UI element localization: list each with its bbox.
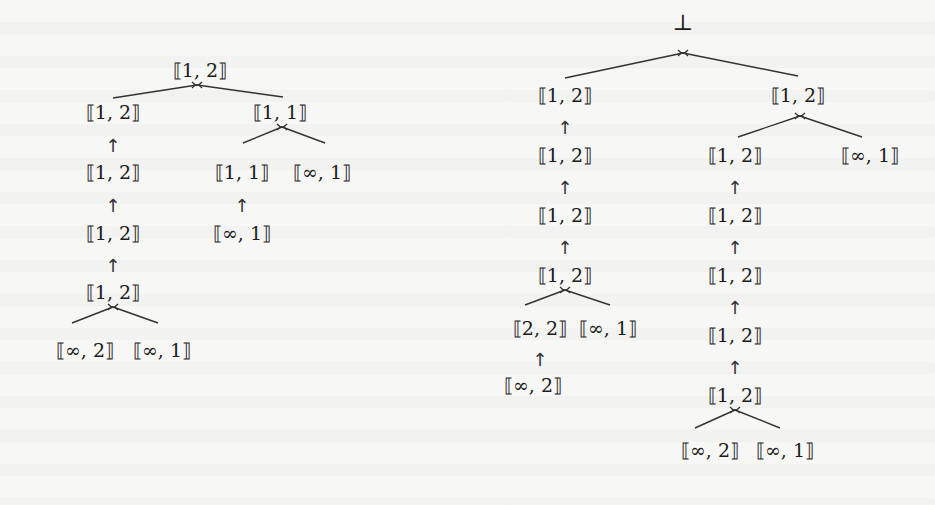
tree-edge: [197, 85, 283, 97]
join-branch: [72, 304, 158, 323]
tree-edge: [800, 116, 862, 137]
tree-node: ⟦1, 1⟧: [253, 101, 307, 123]
up-arrow-icon: ↑: [105, 255, 120, 276]
up-arrow-icon: ↑: [105, 195, 120, 216]
tree-edge: [565, 53, 683, 78]
up-arrow-icon: ↑: [557, 177, 572, 198]
tree-node: ⟦∞, 2⟧: [504, 374, 562, 396]
up-arrow-icon: ↑: [105, 135, 120, 156]
tree-node: ⟦1, 2⟧: [708, 144, 762, 166]
tree-node: ⟦∞, 1⟧: [579, 317, 637, 339]
up-arrow-icon: ↑: [557, 237, 572, 258]
join-branch: [525, 287, 610, 305]
up-arrow-icon: ↑: [727, 177, 742, 198]
up-arrow-icon: ↑: [532, 349, 547, 370]
tree-node: ⟦2, 2⟧: [513, 317, 567, 339]
join-branch: [565, 50, 798, 78]
join-branch: [113, 82, 283, 98]
tree-node: ⟦∞, 2⟧: [56, 339, 114, 361]
tree-edge: [72, 307, 113, 323]
join-icon: [795, 113, 805, 119]
tree-node: ⟦1, 2⟧: [538, 84, 592, 106]
up-arrow-icon: ↑: [727, 237, 742, 258]
tree-edge: [113, 85, 197, 98]
join-icon: [277, 124, 287, 130]
tree-node: ⟦1, 2⟧: [538, 144, 592, 166]
tree-node: ⟦1, 2⟧: [771, 84, 825, 106]
tree-edge: [683, 53, 798, 76]
tree-node: ⟦1, 2⟧: [708, 204, 762, 226]
tree-node: ⟦∞, 2⟧: [681, 439, 739, 461]
tree-node: ⟦1, 2⟧: [86, 281, 140, 303]
tree-node: ⟦1, 2⟧: [538, 264, 592, 286]
tree-edge: [243, 127, 282, 143]
tree-edge: [735, 410, 780, 428]
tree-node: ⟦∞, 1⟧: [213, 222, 271, 244]
tree-node: ⟦1, 2⟧: [86, 161, 140, 183]
tree-node: ⟦1, 2⟧: [538, 204, 592, 226]
lattice-diagram: ↑↑↑↑⟦1, 2⟧⟦1, 2⟧⟦1, 2⟧⟦1, 2⟧⟦1, 2⟧⟦∞, 2⟧…: [0, 0, 935, 505]
up-arrow-icon: ↑: [234, 195, 249, 216]
tree-node: ⟦1, 2⟧: [86, 101, 140, 123]
tree-edge: [525, 290, 565, 305]
tree-node: ⟦∞, 1⟧: [841, 144, 899, 166]
tree-node: ⟦∞, 1⟧: [133, 339, 191, 361]
join-icon: [730, 407, 740, 413]
tree-node: ⟦∞, 1⟧: [293, 161, 351, 183]
tree-edge: [282, 127, 325, 143]
tree-edge: [695, 410, 735, 428]
tree-node: ⟦1, 2⟧: [708, 324, 762, 346]
tree-node: ⟦1, 2⟧: [708, 384, 762, 406]
tree-edge: [565, 290, 610, 305]
tree-node: ⟦∞, 1⟧: [756, 439, 814, 461]
tree-node: ⟦1, 2⟧: [173, 59, 227, 81]
tree-edge: [738, 116, 800, 137]
join-icon: [560, 287, 570, 293]
tree-node: ⟦1, 2⟧: [86, 222, 140, 244]
right-tree: ↑↑↑↑↑↑↑↑⊥⟦1, 2⟧⟦1, 2⟧⟦1, 2⟧⟦1, 2⟧⟦2, 2⟧⟦…: [504, 10, 899, 461]
left-tree: ↑↑↑↑⟦1, 2⟧⟦1, 2⟧⟦1, 2⟧⟦1, 2⟧⟦1, 2⟧⟦∞, 2⟧…: [56, 59, 351, 361]
up-arrow-icon: ↑: [727, 297, 742, 318]
join-branch: [243, 124, 325, 143]
tree-node: ⟦1, 1⟧: [215, 161, 269, 183]
bottom-symbol: ⊥: [673, 10, 694, 35]
up-arrow-icon: ↑: [557, 117, 572, 138]
tree-node: ⟦1, 2⟧: [708, 264, 762, 286]
join-branch: [738, 113, 862, 137]
join-branch: [695, 407, 780, 428]
tree-edge: [113, 307, 158, 323]
up-arrow-icon: ↑: [727, 357, 742, 378]
join-icon: [108, 304, 118, 310]
